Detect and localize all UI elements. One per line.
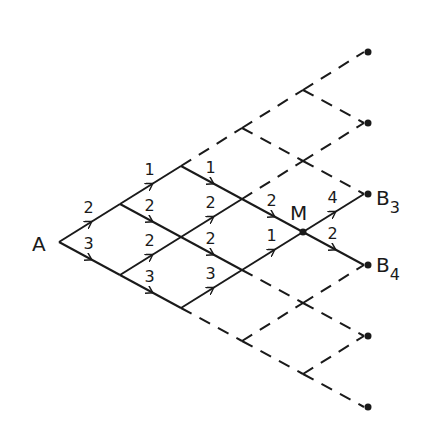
dashed-edge xyxy=(303,265,364,303)
edge-weight: 2 xyxy=(206,229,216,248)
node-m-dot xyxy=(300,229,307,236)
edge-weight: 3 xyxy=(84,234,94,253)
edge-weight: 2 xyxy=(328,224,338,243)
edge-weight: 2 xyxy=(145,231,155,250)
edge-weight: 1 xyxy=(206,158,216,177)
dashed-edge xyxy=(303,123,364,161)
edge-weight: 1 xyxy=(267,226,277,245)
edge-weight: 2 xyxy=(145,196,155,215)
node-label-a: A xyxy=(32,232,46,256)
endpoint-dot xyxy=(365,49,372,56)
endpoint-dot xyxy=(365,404,372,411)
endpoint-dot xyxy=(365,191,372,198)
node-label-m: M xyxy=(290,201,307,225)
edge-weight: 1 xyxy=(145,160,155,179)
dashed-edge xyxy=(242,341,303,374)
dashed-edge xyxy=(242,303,303,341)
dashed-edge xyxy=(303,90,364,123)
edge-weight: 2 xyxy=(206,193,216,212)
node-label-b4: B4 xyxy=(376,253,400,284)
edge-weight: 2 xyxy=(84,198,94,217)
endpoint-dot xyxy=(365,120,372,127)
endpoint-dot xyxy=(365,333,372,340)
dashed-edge xyxy=(303,303,364,336)
edge-weight: 4 xyxy=(328,188,338,207)
dashed-edge xyxy=(303,374,364,407)
endpoint-dot xyxy=(365,262,372,269)
dashed-edge xyxy=(242,270,303,303)
edge-weight: 3 xyxy=(145,267,155,286)
dashed-edge xyxy=(181,308,242,341)
dashed-edge xyxy=(242,128,303,161)
edge-weight: 3 xyxy=(206,264,216,283)
edge-weight: 2 xyxy=(267,191,277,210)
node-label-b3: B3 xyxy=(376,186,400,217)
dashed-edge xyxy=(242,90,303,128)
dashed-edge xyxy=(303,52,364,90)
lattice-diagram: 23122312232142 A M B3 B4 xyxy=(0,0,430,437)
dashed-edge xyxy=(303,336,364,374)
